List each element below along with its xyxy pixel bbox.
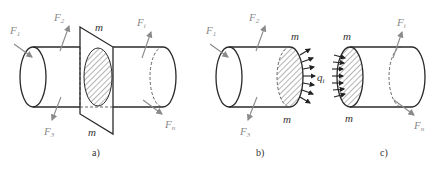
force-arrow-F1: [14, 44, 32, 57]
label-F2: F2: [248, 11, 260, 25]
label-Fn: Fn: [413, 119, 425, 133]
label-F2: F2: [53, 11, 65, 25]
left-end-ellipse: [216, 47, 242, 107]
left-end-ellipse: [20, 47, 46, 107]
label-Fi: Fi: [396, 16, 406, 30]
label-m-top: m: [95, 21, 103, 33]
panel-c: Fi Fn m m c): [332, 16, 425, 159]
label-Fn: Fn: [164, 118, 176, 132]
label-F1: F1: [9, 24, 20, 38]
label-m-bottom: m: [88, 126, 96, 138]
force-arrow-Fi: [142, 32, 151, 58]
panel-a: F1 F2 F3 Fi Fn m m a): [9, 11, 176, 159]
label-F1: F1: [205, 24, 216, 38]
right-end-arc: [163, 47, 176, 107]
caption-a: a): [92, 147, 100, 159]
cut-face-hatched: [337, 47, 363, 107]
label-m-top: m: [343, 30, 351, 42]
force-arrow-Fi: [393, 32, 402, 58]
right-end-arc: [412, 47, 425, 107]
label-F3: F3: [43, 125, 55, 139]
label-m-bottom: m: [283, 113, 291, 125]
force-arrow-F1: [210, 44, 228, 57]
label-q: qi: [317, 71, 325, 85]
force-arrow-F3: [52, 97, 61, 120]
label-F3: F3: [239, 125, 251, 139]
force-arrow-F3: [248, 97, 257, 120]
caption-b: b): [256, 147, 264, 159]
cross-section-hatched: [84, 48, 112, 106]
label-m-top: m: [291, 30, 299, 42]
method-of-sections-figure: F1 F2 F3 Fi Fn m m a) F1 F2 F3 m: [0, 0, 436, 173]
panel-b: F1 F2 F3 m m qi b): [205, 11, 325, 159]
label-Fi: Fi: [136, 16, 146, 30]
caption-c: c): [380, 147, 388, 159]
label-m-bottom: m: [345, 112, 353, 124]
